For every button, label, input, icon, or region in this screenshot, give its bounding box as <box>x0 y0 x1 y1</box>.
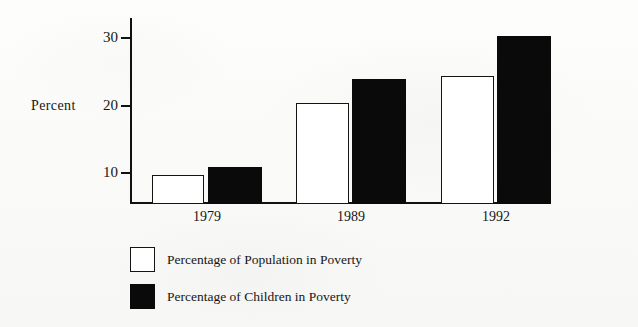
y-tick-label-20: 20 <box>82 98 118 113</box>
y-tick-label-30: 30 <box>82 30 118 45</box>
legend-swatch-solid-icon <box>130 284 155 309</box>
legend-label-children: Percentage of Children in Poverty <box>167 289 351 305</box>
bar-1992-children <box>497 36 551 204</box>
y-axis-title: Percent <box>31 98 76 113</box>
bar-1979-population <box>152 175 204 204</box>
poverty-bar-chart: Percent 30 20 10 1979 1989 1992 Percenta… <box>0 0 638 327</box>
bar-1979-children <box>208 167 262 204</box>
legend-label-population: Percentage of Population in Poverty <box>167 252 362 268</box>
bar-1992-population <box>441 76 494 204</box>
x-label-1979: 1979 <box>172 209 242 225</box>
legend-item-population: Percentage of Population in Poverty <box>130 247 362 272</box>
bar-1989-population <box>296 103 349 204</box>
y-tick-mark-10 <box>121 172 131 174</box>
y-axis-line <box>130 18 132 204</box>
x-label-1992: 1992 <box>461 209 531 225</box>
legend-item-children: Percentage of Children in Poverty <box>130 284 351 309</box>
y-tick-mark-20 <box>121 105 131 107</box>
legend-swatch-open-icon <box>130 247 155 272</box>
y-tick-mark-30 <box>121 37 131 39</box>
x-label-1989: 1989 <box>316 209 386 225</box>
y-tick-label-10: 10 <box>82 165 118 180</box>
bar-1989-children <box>352 79 406 204</box>
